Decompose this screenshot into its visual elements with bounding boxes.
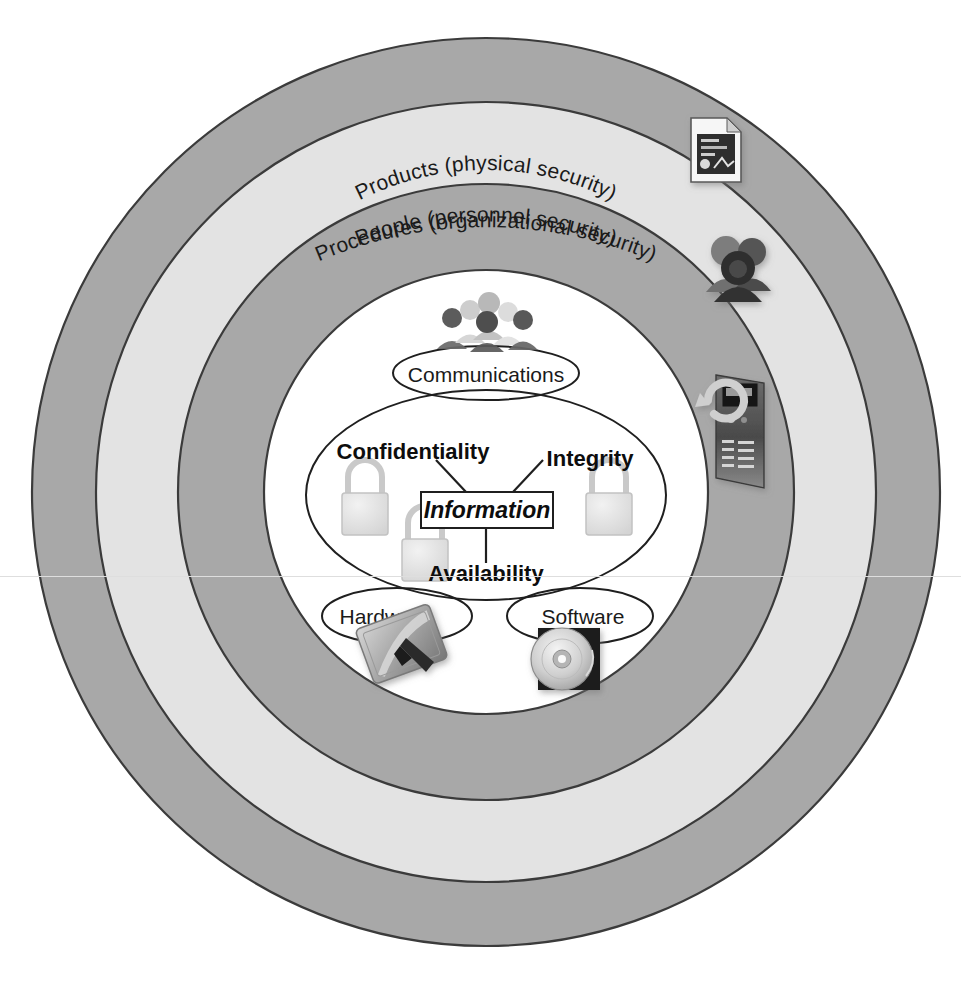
pillar-label-integrity: Integrity	[547, 446, 635, 471]
security-layers-diagram: Procedures (organizational security) Peo…	[0, 0, 961, 998]
document-icon	[691, 118, 741, 182]
asset-label-software: Software	[542, 605, 625, 628]
information-label: Information	[424, 497, 551, 523]
diagram-canvas: Procedures (organizational security) Peo…	[0, 0, 961, 998]
asset-label-communications: Communications	[408, 363, 564, 386]
pillar-label-confidentiality: Confidentiality	[337, 439, 491, 464]
cd-disc-icon	[531, 628, 600, 690]
pillar-label-availability: Availability	[428, 561, 544, 586]
